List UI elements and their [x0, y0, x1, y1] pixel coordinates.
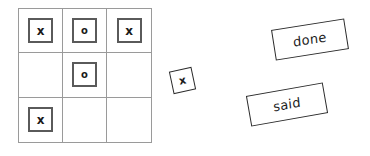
- tic-tac-toe-grid: x o x o: [18, 8, 152, 143]
- word-card-label: said: [273, 96, 302, 114]
- o-mark-icon: o: [81, 26, 88, 36]
- word-card-said[interactable]: said: [246, 82, 328, 126]
- word-card-done[interactable]: done: [271, 18, 349, 60]
- grid-cell-r2c2[interactable]: o: [63, 53, 107, 97]
- grid-cell-r1c2[interactable]: o: [63, 9, 107, 53]
- loose-x-tile[interactable]: x: [169, 67, 196, 94]
- workspace-canvas: x o x o: [0, 0, 370, 156]
- tile-r1c1[interactable]: x: [28, 18, 53, 43]
- grid-cell-r3c2[interactable]: [63, 98, 107, 142]
- x-mark-icon: x: [37, 114, 45, 126]
- x-mark-icon: x: [178, 74, 187, 86]
- tile-r1c2[interactable]: o: [72, 18, 97, 43]
- x-mark-icon: x: [125, 25, 133, 37]
- grid-cell-r1c1[interactable]: x: [19, 9, 63, 53]
- tile-r3c1[interactable]: x: [28, 107, 53, 132]
- o-mark-icon: o: [81, 70, 88, 80]
- x-mark-icon: x: [37, 25, 45, 37]
- word-card-label: done: [293, 30, 327, 48]
- grid-cell-r3c1[interactable]: x: [19, 98, 63, 142]
- grid-cell-r2c1[interactable]: [19, 53, 63, 97]
- tile-r2c2[interactable]: o: [72, 62, 97, 87]
- grid-cell-r3c3[interactable]: [107, 98, 151, 142]
- grid-cell-r2c3[interactable]: [107, 53, 151, 97]
- grid-cell-r1c3[interactable]: x: [107, 9, 151, 53]
- tile-r1c3[interactable]: x: [117, 18, 142, 43]
